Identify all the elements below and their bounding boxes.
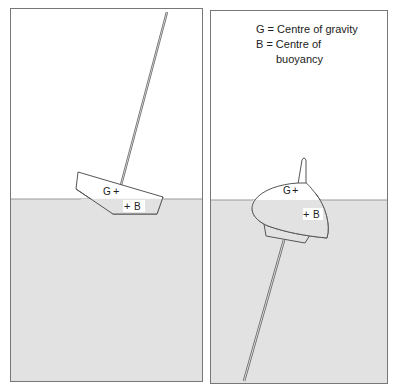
legend-line-3: buoyancy: [276, 53, 324, 65]
stability-diagram: G + + B G = Centre of gravity B = Centre…: [0, 0, 398, 391]
right-b-cross: +: [303, 208, 309, 220]
right-b-label: B: [313, 209, 320, 220]
left-b-label: B: [134, 201, 141, 212]
right-panel: G = Centre of gravity B = Centre of buoy…: [211, 11, 388, 384]
legend-line-1: G = Centre of gravity: [256, 23, 358, 35]
left-g-cross: +: [113, 185, 119, 197]
legend-line-2: B = Centre of: [256, 38, 322, 50]
left-b-cross: +: [124, 200, 130, 212]
right-g-cross: +: [292, 184, 298, 196]
left-panel: G + + B: [11, 9, 203, 382]
right-g-label: G: [283, 185, 291, 196]
left-g-label: G: [103, 186, 111, 197]
left-water: [11, 199, 202, 381]
